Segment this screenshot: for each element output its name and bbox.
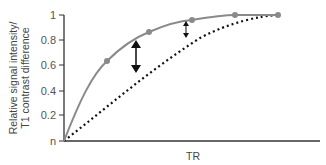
double-arrow-icon-large [131,40,141,73]
solid-curve-markers [104,12,281,64]
y-tick-0.8: 0.8 [41,34,56,46]
y-axis-title-line2: T1 contrast difference [19,27,31,129]
y-tick-1: 1 [50,9,56,21]
y-tick-0.4: 0.4 [41,85,56,97]
y-tick-0.6: 0.6 [41,59,56,71]
y-tick-0.2: 0.2 [41,109,56,121]
double-arrow-icon-small [183,21,189,38]
dotted-curve [64,15,278,141]
y-tick-0: n [50,135,56,147]
y-axis-title-line1: Relative signal intensity/ [7,22,19,135]
x-axis-title: TR [186,150,200,162]
chart: 1 0.8 0.6 0.4 0.2 n Relative signal inte… [0,0,326,165]
solid-curve [64,15,278,141]
